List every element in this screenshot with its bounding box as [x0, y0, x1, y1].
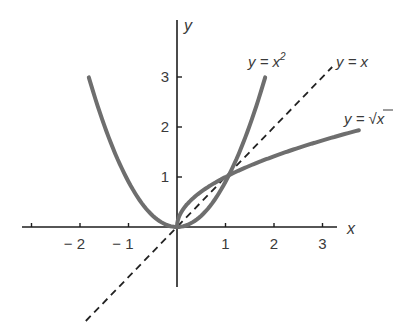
parabola-label-exponent: 2 — [279, 51, 286, 62]
y-axis-label: y — [183, 17, 193, 34]
x-tick-label: − 2 — [64, 235, 85, 252]
x-tick-label: 1 — [221, 235, 229, 252]
sqrt-label-arg: x — [376, 110, 385, 127]
parabola-label-text: y = x — [247, 53, 281, 70]
x-tick-label: − 1 — [112, 235, 133, 252]
curve-labels: y = x2 y = x y = √x — [247, 51, 393, 127]
x-tick-label: 2 — [270, 235, 278, 252]
x-axis-label: x — [346, 220, 356, 237]
identity-line — [86, 67, 332, 321]
identity-label: y = x — [335, 53, 369, 70]
y-ticks: 123 — [161, 68, 182, 185]
y-tick-label: 2 — [161, 118, 169, 135]
axes: − 2− 1123 123 x y — [22, 17, 356, 287]
sqrt-label-prefix: y = — [343, 110, 369, 127]
curves — [86, 67, 359, 321]
y-tick-label: 3 — [161, 68, 169, 85]
x-tick-label: 3 — [318, 235, 326, 252]
function-graph: − 2− 1123 123 x y y = x2 y = x y = √x — [0, 0, 418, 332]
parabola-label: y = x2 — [247, 51, 286, 70]
sqrt-label: y = √x — [343, 110, 385, 127]
y-tick-label: 1 — [161, 168, 169, 185]
